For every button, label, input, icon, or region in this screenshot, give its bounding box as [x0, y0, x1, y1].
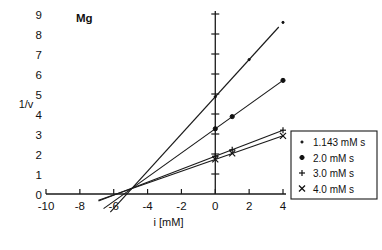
series-line [98, 136, 283, 200]
data-series [110, 21, 284, 212]
y-tick-label: 4 [36, 109, 43, 121]
chart-title: Mg [76, 12, 93, 24]
marker-tiny-dot [301, 141, 303, 143]
data-point [213, 127, 217, 131]
y-tick-label: 7 [36, 49, 42, 61]
data-point [230, 115, 234, 119]
y-tick-label: 5 [36, 89, 42, 101]
y-tick-label: 2 [36, 149, 42, 161]
chart-svg: -10-8-6-4-2024i [mM]01234567891/vMg1.143… [0, 0, 382, 250]
series-line [110, 27, 278, 212]
data-point [214, 96, 216, 98]
data-point [248, 59, 250, 61]
series-group [98, 21, 286, 212]
y-tick-label: 0 [36, 189, 42, 201]
legend-marker [300, 155, 304, 159]
legend-marker [301, 141, 303, 143]
marker-tiny-dot [248, 59, 250, 61]
x-tick-label: 0 [212, 200, 218, 212]
data-point [282, 21, 284, 23]
x-tick-label: -4 [142, 200, 153, 212]
data-series [98, 133, 286, 200]
x-axis-title: i [mM] [154, 216, 184, 228]
marker-tiny-dot [214, 96, 216, 98]
data-point [281, 78, 285, 82]
marker-tiny-dot [282, 21, 284, 23]
data-point [280, 133, 286, 139]
y-tick-label: 9 [36, 9, 42, 21]
y-tick-label: 3 [36, 129, 42, 141]
legend-label: 2.0 mM s [313, 153, 354, 164]
y-tick-label: 1 [36, 169, 42, 181]
marker-filled-dot [213, 127, 217, 131]
x-tick-label: 4 [280, 200, 287, 212]
x-tick-label: -2 [176, 200, 186, 212]
marker-filled-dot [230, 115, 234, 119]
marker-filled-dot [281, 78, 285, 82]
y-axis-title: 1/v [19, 98, 34, 110]
y-tick-label: 8 [36, 29, 42, 41]
x-tick-label: -10 [38, 200, 55, 212]
legend-label: 4.0 mM s [313, 184, 354, 195]
y-tick-label: 6 [36, 69, 42, 81]
x-tick-label: -8 [75, 200, 85, 212]
legend-label: 3.0 mM s [313, 168, 354, 179]
marker-filled-dot [300, 155, 304, 159]
x-tick-label: 2 [246, 200, 252, 212]
legend-label: 1.143 mM s [313, 137, 365, 148]
data-point [280, 127, 286, 133]
legend: 1.143 mM s2.0 mM s3.0 mM s4.0 mM s [291, 131, 377, 199]
chart-figure: -10-8-6-4-2024i [mM]01234567891/vMg1.143… [0, 0, 382, 250]
